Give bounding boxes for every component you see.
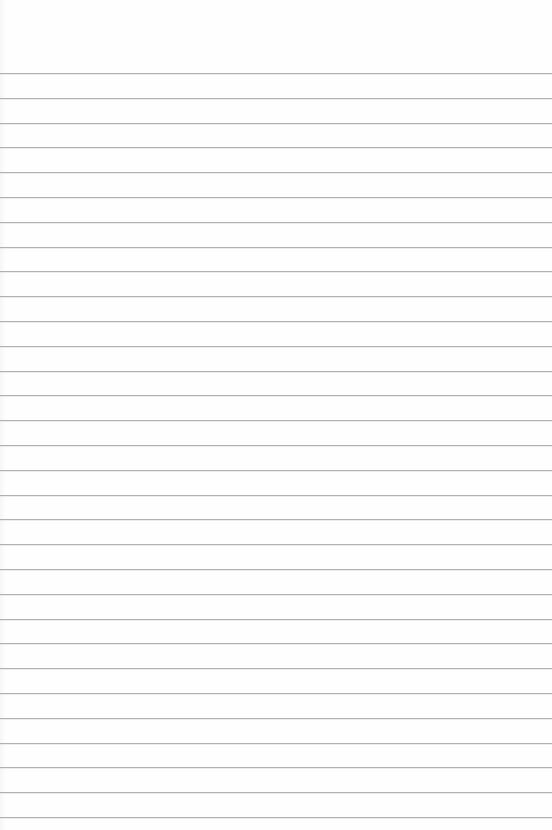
ruled-line [0, 73, 552, 74]
ruled-line [0, 519, 552, 520]
ruled-line [0, 817, 552, 818]
ruled-line [0, 123, 552, 124]
ruled-line [0, 197, 552, 198]
ruled-line [0, 619, 552, 620]
lined-paper-page [0, 0, 552, 830]
ruled-line [0, 98, 552, 99]
ruled-line [0, 544, 552, 545]
ruled-line [0, 371, 552, 372]
ruled-line [0, 643, 552, 644]
ruled-line [0, 147, 552, 148]
ruled-line [0, 495, 552, 496]
ruled-line [0, 792, 552, 793]
ruled-line [0, 693, 552, 694]
ruled-line [0, 569, 552, 570]
ruled-line [0, 222, 552, 223]
ruled-line [0, 718, 552, 719]
ruled-line [0, 743, 552, 744]
ruled-line [0, 271, 552, 272]
ruled-line [0, 321, 552, 322]
ruled-line [0, 420, 552, 421]
ruled-line [0, 247, 552, 248]
ruled-line [0, 172, 552, 173]
ruled-line [0, 594, 552, 595]
ruled-line [0, 470, 552, 471]
ruled-line [0, 395, 552, 396]
ruled-line [0, 668, 552, 669]
ruled-line [0, 296, 552, 297]
ruled-line [0, 767, 552, 768]
ruled-line [0, 346, 552, 347]
ruled-line [0, 445, 552, 446]
